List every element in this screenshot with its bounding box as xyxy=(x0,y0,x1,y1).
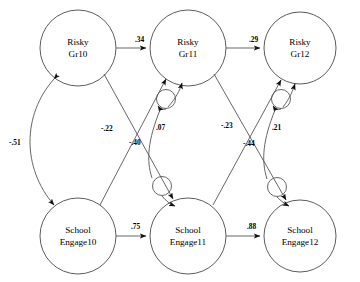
node-label-line1: Risky xyxy=(289,37,311,47)
path-line xyxy=(104,74,173,199)
path-diagram-svg: Risky Gr10 Risky Gr11 Risky Gr12 School … xyxy=(0,0,360,282)
node-label-line2: Engage11 xyxy=(170,237,207,247)
path-line xyxy=(213,80,281,205)
path-diagram-canvas: Risky Gr10 Risky Gr11 Risky Gr12 School … xyxy=(0,0,360,282)
node-circle xyxy=(264,12,336,84)
path-risky10-to-risky11[interactable]: .34 xyxy=(116,35,146,48)
node-school-engage10[interactable]: School Engage10 xyxy=(40,198,116,274)
node-label-line2: Engage10 xyxy=(60,237,97,247)
path-coefficient: -.22 xyxy=(101,124,113,133)
node-label-line2: Engage12 xyxy=(282,237,319,247)
node-label-line1: School xyxy=(65,225,91,235)
path-coefficient: .88 xyxy=(247,222,257,231)
path-engage11-to-engage12[interactable]: .88 xyxy=(226,222,260,236)
node-label-line2: Gr11 xyxy=(179,49,198,59)
disturbance-connector xyxy=(264,110,275,179)
correlation-curve xyxy=(30,79,54,205)
node-label-line1: Risky xyxy=(67,37,89,47)
path-risky10-to-engage11[interactable]: -.40 xyxy=(104,74,173,199)
path-coefficient: -.23 xyxy=(221,121,233,130)
path-risky11-to-risky12[interactable]: .29 xyxy=(226,35,260,48)
path-coefficient: -.51 xyxy=(9,138,21,147)
node-school-engage12[interactable]: School Engage12 xyxy=(264,200,336,272)
node-circle xyxy=(40,198,116,274)
node-risky-gr12[interactable]: Risky Gr12 xyxy=(264,12,336,84)
node-circle xyxy=(264,200,336,272)
node-label-line1: School xyxy=(287,225,313,235)
node-label-line2: Gr12 xyxy=(291,49,310,59)
node-label-line1: Risky xyxy=(177,37,199,47)
path-coefficient: .21 xyxy=(272,123,282,132)
node-school-engage11[interactable]: School Engage11 xyxy=(150,198,226,274)
path-coefficient: .34 xyxy=(135,35,145,44)
path-coefficient: .29 xyxy=(249,35,259,44)
node-label-line2: Gr10 xyxy=(69,49,88,59)
path-engage10-to-engage11[interactable]: .75 xyxy=(116,222,146,236)
disturbance-loop-upper xyxy=(157,90,176,109)
disturbance-loop-lower xyxy=(268,178,287,197)
path-engage10-to-risky11[interactable]: -.22 xyxy=(100,79,166,205)
path-coefficient: .75 xyxy=(131,222,141,231)
node-label-line1: School xyxy=(175,225,201,235)
disturbance-correlation-wave11[interactable]: .07 xyxy=(149,83,182,206)
path-engage11-to-risky12[interactable]: -.23 xyxy=(213,80,281,205)
disturbance-connector xyxy=(149,110,160,178)
path-coefficient: .07 xyxy=(156,123,166,132)
correlation-risky10-engage10[interactable]: -.51 xyxy=(9,79,54,205)
path-line xyxy=(100,79,166,205)
disturbance-loop-upper xyxy=(272,90,291,109)
node-circle xyxy=(150,198,226,274)
